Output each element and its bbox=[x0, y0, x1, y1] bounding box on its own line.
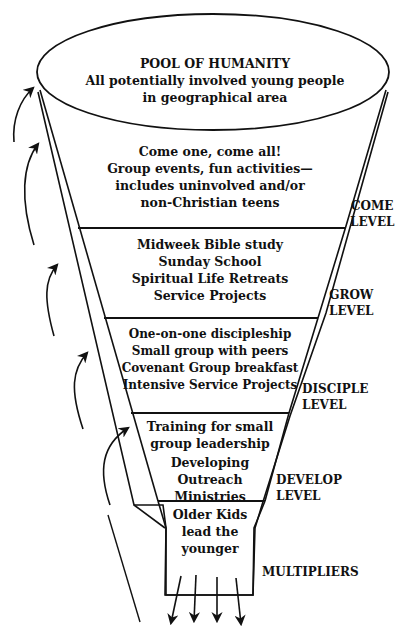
level-word: MULTIPLIERS bbox=[262, 564, 359, 580]
tier-line: non-Christian teens bbox=[100, 194, 320, 211]
tier-line: Older Kids bbox=[165, 506, 255, 523]
tier-line: group leadership bbox=[140, 435, 280, 452]
level-word: GROW bbox=[329, 287, 373, 303]
tier-line: Sunday School bbox=[110, 253, 310, 270]
tier-line: Come one, come all! bbox=[100, 143, 320, 160]
level-label-develop: DEVELOP LEVEL bbox=[276, 472, 342, 504]
tier-line: includes uninvolved and/or bbox=[100, 177, 320, 194]
left-guide-line bbox=[108, 515, 140, 622]
tier-line: Spiritual Life Retreats bbox=[110, 270, 310, 287]
tier-line: lead the bbox=[165, 523, 255, 540]
tier-disciple-text: One-on-one discipleship Small group with… bbox=[112, 326, 308, 394]
tier-grow-text: Midweek Bible study Sunday School Spirit… bbox=[110, 236, 310, 304]
level-word: DEVELOP bbox=[276, 472, 342, 488]
tier-line: Training for small bbox=[140, 418, 280, 435]
level-word: LEVEL bbox=[329, 303, 373, 319]
tier-multipliers-text: Older Kids lead the younger bbox=[165, 506, 255, 557]
level-label-grow: GROW LEVEL bbox=[329, 287, 373, 319]
tier-line: Service Projects bbox=[110, 287, 310, 304]
tier-line: Covenant Group breakfast bbox=[112, 360, 308, 377]
tier-line: Group events, fun activities— bbox=[100, 160, 320, 177]
pool-line: All potentially involved young people bbox=[85, 72, 345, 89]
tier-line: Intensive Service Projects bbox=[112, 377, 308, 394]
tier-develop-text: Training for small group leadership Deve… bbox=[140, 418, 280, 505]
level-word: LEVEL bbox=[276, 488, 342, 504]
tier-line: Developing bbox=[140, 454, 280, 471]
down-arrow-icons bbox=[171, 575, 241, 624]
level-word: LEVEL bbox=[302, 397, 368, 413]
level-label-come: COME LEVEL bbox=[350, 198, 394, 230]
tier-come-text: Come one, come all! Group events, fun ac… bbox=[100, 143, 320, 211]
level-word: LEVEL bbox=[350, 214, 394, 230]
pool-title: POOL OF HUMANITY bbox=[85, 55, 345, 72]
tier-line: younger bbox=[165, 540, 255, 557]
tier-line: Ministries bbox=[140, 488, 280, 505]
level-word: COME bbox=[350, 198, 394, 214]
tier-line: One-on-one discipleship bbox=[112, 326, 308, 343]
level-label-multipliers: MULTIPLIERS bbox=[262, 564, 359, 580]
level-label-disciple: DISCIPLE LEVEL bbox=[302, 381, 368, 413]
tier-line: Small group with peers bbox=[112, 343, 308, 360]
level-word: DISCIPLE bbox=[302, 381, 368, 397]
tier-line: Outreach bbox=[140, 471, 280, 488]
pool-line: in geographical area bbox=[85, 89, 345, 106]
tier-line: Midweek Bible study bbox=[110, 236, 310, 253]
pool-text: POOL OF HUMANITY All potentially involve… bbox=[85, 55, 345, 106]
